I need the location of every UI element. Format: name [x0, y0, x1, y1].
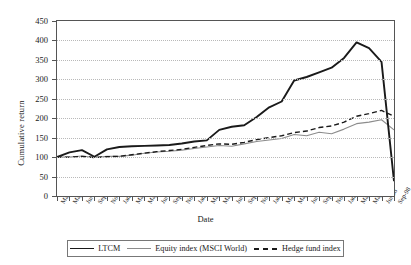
legend-label-ltcm: LTCM	[98, 244, 120, 253]
gridline	[57, 138, 394, 139]
gridline	[57, 118, 394, 119]
legend-item-equity-index: Equity index (MSCI World)	[127, 244, 247, 253]
legend-swatch-hedge-fund-index	[254, 247, 278, 250]
x-axis-title: Date	[0, 214, 411, 224]
plot-area	[56, 20, 395, 197]
gridline	[57, 157, 394, 158]
y-axis-tick-label: 200	[8, 113, 48, 123]
legend-item-ltcm: LTCM	[70, 244, 120, 253]
x-axis-tick-mark	[182, 197, 183, 201]
x-axis-tick-label: Sep-98	[396, 186, 411, 205]
x-axis-tick-mark	[232, 197, 233, 201]
gridline	[57, 60, 394, 61]
y-axis-tick-label: 400	[8, 35, 48, 45]
x-axis-tick-mark	[307, 197, 308, 201]
legend-item-hedge-fund-index: Hedge fund index	[254, 244, 341, 253]
x-axis-tick-mark	[257, 197, 258, 201]
series-line-ltcm	[57, 42, 394, 181]
y-axis-tick-label: 150	[8, 133, 48, 143]
gridline	[57, 177, 394, 178]
gridline	[57, 99, 394, 100]
x-axis-tick-mark	[382, 197, 383, 201]
y-axis-tick-label: 100	[8, 152, 48, 162]
y-axis-tick-label: 300	[8, 74, 48, 84]
x-axis-tick-mark	[357, 197, 358, 201]
x-axis-tick-mark	[157, 197, 158, 201]
gridline	[57, 79, 394, 80]
series-lines	[57, 21, 394, 196]
x-axis-tick-mark	[282, 197, 283, 201]
x-axis-tick-mark	[332, 197, 333, 201]
y-axis-tick-label: 50	[8, 172, 48, 182]
legend-swatch-equity-index	[127, 248, 151, 249]
legend-label-equity-index: Equity index (MSCI World)	[155, 244, 247, 253]
chart-legend: LTCM Equity index (MSCI World) Hedge fun…	[67, 240, 344, 257]
legend-swatch-ltcm	[70, 248, 94, 249]
gridline	[57, 40, 394, 41]
x-axis-tick-mark	[207, 197, 208, 201]
y-axis-tick-label: 450	[8, 16, 48, 26]
legend-label-hedge-fund-index: Hedge fund index	[282, 244, 341, 253]
chart-container: Cumulative return 0501001502002503003504…	[0, 0, 411, 265]
y-axis-tick-label: 250	[8, 94, 48, 104]
y-axis-tick-label: 0	[8, 191, 48, 201]
x-axis-tick-mark	[132, 197, 133, 201]
y-axis-tick-label: 350	[8, 55, 48, 65]
